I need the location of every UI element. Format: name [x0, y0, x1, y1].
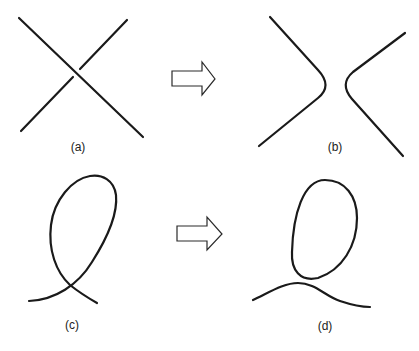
closed-oval	[292, 180, 357, 279]
diagram-canvas	[0, 0, 419, 351]
strand-under-upper	[80, 20, 127, 69]
right-arrow-icon	[177, 217, 222, 250]
strand-over	[19, 18, 143, 137]
panel-d-label: (d)	[318, 319, 333, 333]
panel-b-label: (b)	[328, 140, 343, 154]
separate-arc	[253, 283, 370, 307]
loop-strand	[29, 176, 116, 303]
left-arc	[259, 17, 326, 146]
right-arc	[346, 33, 405, 156]
panel-c-loop	[29, 176, 116, 303]
right-arrow-icon	[172, 62, 215, 95]
panel-c-label: (c)	[65, 318, 79, 332]
panel-d-separated	[253, 180, 370, 307]
panel-a-label: (a)	[71, 140, 86, 154]
panel-a-crossing	[19, 18, 143, 137]
strand-under-lower	[21, 77, 73, 131]
panel-b-smoothed	[259, 17, 405, 156]
